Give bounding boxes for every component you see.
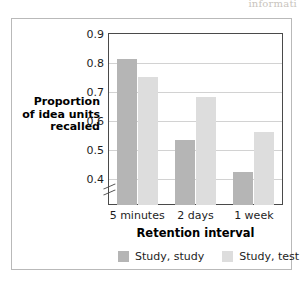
bar-group bbox=[166, 33, 224, 205]
bar-group bbox=[108, 33, 166, 205]
bars-layer bbox=[108, 33, 283, 205]
legend-swatch bbox=[118, 251, 129, 262]
y-axis-tick-label: 0.5 bbox=[87, 144, 105, 157]
bar bbox=[196, 97, 216, 205]
x-axis-tick-labels: 5 minutes2 days1 week bbox=[108, 209, 283, 223]
bar bbox=[233, 172, 253, 205]
chart-legend: Study, studyStudy, test bbox=[118, 250, 299, 263]
y-axis-tick-label: 0.4 bbox=[87, 173, 105, 186]
legend-label: Study, study bbox=[135, 250, 204, 263]
bar bbox=[254, 132, 274, 205]
x-axis-tick-label: 2 days bbox=[177, 209, 213, 222]
legend-label: Study, test bbox=[239, 250, 299, 263]
legend-item: Study, test bbox=[222, 250, 299, 263]
legend-swatch bbox=[222, 251, 233, 262]
bar bbox=[138, 77, 158, 206]
y-axis-tick-label: 0.6 bbox=[87, 115, 105, 128]
bar bbox=[175, 140, 195, 205]
y-axis-tick-label: 0.9 bbox=[87, 28, 105, 41]
page-bleed-text: informati bbox=[248, 0, 297, 9]
bar bbox=[117, 59, 137, 205]
x-axis-title: Retention interval bbox=[108, 226, 283, 240]
y-axis-tick-label: 0.7 bbox=[87, 86, 105, 99]
x-axis-tick-label: 1 week bbox=[234, 209, 273, 222]
x-axis-tick-label: 5 minutes bbox=[110, 209, 165, 222]
bar-group bbox=[225, 33, 283, 205]
legend-item: Study, study bbox=[118, 250, 204, 263]
y-axis-tick-label: 0.8 bbox=[87, 57, 105, 70]
